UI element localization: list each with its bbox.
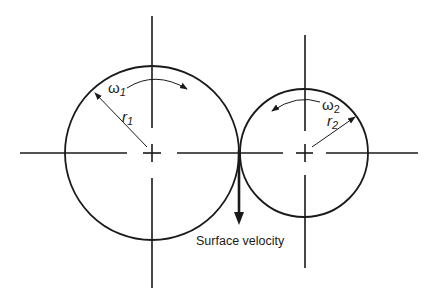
surface-velocity-label: Surface velocity (196, 234, 285, 248)
radius-r1-arrow (95, 93, 147, 147)
omega1-rotation-arrow (127, 79, 187, 89)
omega2-rotation-arrow (272, 99, 320, 111)
r1-label: r1 (122, 108, 133, 127)
omega1-label: ω1 (108, 79, 126, 98)
surface-velocity-arrowhead (234, 212, 244, 225)
rolling-contact-diagram: ω1 r1 ω2 r2 Surface velocity (0, 0, 440, 305)
